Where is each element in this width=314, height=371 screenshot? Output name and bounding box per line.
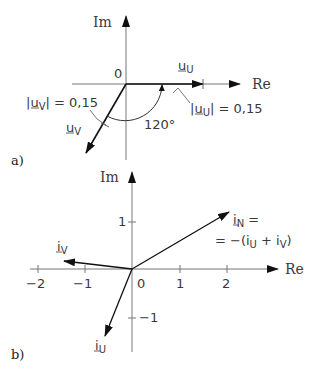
x-tick-label: 2: [222, 276, 230, 291]
re-label-b: Re: [285, 261, 304, 277]
svg-text:|uV| = 0,15: |uV| = 0,15: [26, 95, 98, 112]
y-tick-label: −1: [139, 310, 158, 325]
phasor-i-u-label: iU: [94, 338, 106, 355]
phasor-i-n-label: iN = = −(iU + iV): [215, 212, 292, 250]
phasor-i-u: [105, 269, 132, 336]
im-label-b: Im: [100, 169, 119, 185]
magnitude-u-u: |uU| = 0,15: [190, 101, 262, 118]
origin-label-a: 0: [114, 66, 122, 81]
phasor-diagram: Re Im 0 uU |uU| = 0,15 |uV| = 0,15 uV: [0, 0, 314, 371]
svg-text:iN =: iN =: [233, 212, 259, 229]
panel-label-a: a): [11, 153, 24, 168]
x-tick-label: 0: [137, 276, 145, 291]
im-label-a: Im: [93, 14, 112, 30]
panel-label-b: b): [11, 347, 24, 362]
y-tick-label: 1: [118, 214, 126, 229]
svg-text:= −(iU + iV): = −(iU + iV): [215, 233, 292, 250]
x-tick-label: 1: [176, 276, 184, 291]
panel-a: Re Im 0 uU |uU| = 0,15 |uV| = 0,15 uV: [11, 14, 271, 168]
svg-text:uU: uU: [178, 58, 194, 75]
leader-u-u: [173, 88, 190, 103]
phasor-i-v: [64, 261, 132, 269]
svg-text:iU: iU: [95, 338, 106, 355]
magnitude-u-v: |uV| = 0,15: [26, 95, 98, 112]
re-label-a: Re: [252, 76, 271, 92]
phasor-i-v-label: iV: [56, 239, 68, 256]
svg-text:uV: uV: [66, 120, 81, 137]
angle-label: 120°: [144, 117, 175, 132]
x-tick-label: −2: [26, 276, 45, 291]
phasor-u-u-label: uU: [178, 58, 194, 75]
panel-b: Re Im −2 −1 0 1 2 1 −1 iN = = −(iU + iV)…: [11, 169, 304, 362]
svg-text:|uU| = 0,15: |uU| = 0,15: [190, 101, 262, 118]
svg-text:iV: iV: [57, 239, 68, 256]
phasor-u-v-label: uV: [66, 120, 81, 137]
x-tick-label: −1: [73, 276, 92, 291]
